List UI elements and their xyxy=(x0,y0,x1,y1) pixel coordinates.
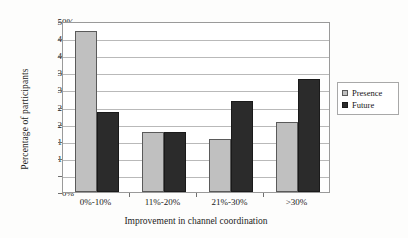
y-axis-title: Percentage of participants xyxy=(14,0,36,238)
gridline xyxy=(63,40,329,41)
y-axis-tick-mark xyxy=(58,193,62,194)
gridline xyxy=(63,109,329,110)
legend-swatch-icon xyxy=(342,90,348,96)
legend-item-label: Presence xyxy=(352,88,382,98)
legend-item-future: Future xyxy=(342,99,395,110)
legend-swatch-icon xyxy=(342,102,348,108)
legend-item-label: Future xyxy=(352,100,374,110)
gridline xyxy=(63,57,329,58)
plot-area xyxy=(62,22,330,193)
x-axis-tick-label: 21%-30% xyxy=(212,197,248,207)
x-axis-tick-label: >30% xyxy=(286,197,308,207)
bar-chart: Percentage of participants 50%45%40%35%3… xyxy=(0,0,408,238)
x-axis-tick-label: 11%-20% xyxy=(145,197,181,207)
bar-presence-3 xyxy=(276,122,298,192)
bar-presence-2 xyxy=(209,139,231,192)
x-axis-tick-mark xyxy=(263,193,264,197)
bar-future-3 xyxy=(298,79,320,192)
bar-presence-1 xyxy=(142,132,164,192)
gridline xyxy=(63,91,329,92)
x-axis-tick-mark xyxy=(196,193,197,197)
gridline xyxy=(63,74,329,75)
bar-future-2 xyxy=(231,101,253,192)
legend: PresenceFuture xyxy=(337,82,399,115)
x-axis-tick-label: 0%-10% xyxy=(80,197,112,207)
bar-future-1 xyxy=(164,132,186,192)
x-axis-title: Improvement in channel coordination xyxy=(62,216,330,226)
bar-presence-0 xyxy=(75,31,97,192)
x-axis-tick-mark xyxy=(129,193,130,197)
bar-future-0 xyxy=(97,112,119,192)
legend-item-presence: Presence xyxy=(342,87,395,98)
